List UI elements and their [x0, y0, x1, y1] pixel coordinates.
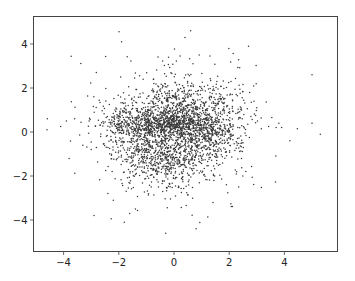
data-point	[118, 152, 120, 154]
data-point	[281, 127, 283, 129]
data-point	[211, 120, 213, 122]
data-point	[133, 155, 135, 157]
data-point	[156, 69, 158, 71]
data-point	[148, 112, 150, 114]
data-point	[110, 121, 112, 123]
data-point	[208, 158, 210, 160]
data-point	[179, 130, 181, 132]
data-point	[124, 221, 126, 223]
data-point	[205, 118, 207, 120]
data-point	[155, 116, 157, 118]
data-point	[150, 153, 152, 155]
data-point	[117, 115, 119, 117]
data-point	[261, 128, 263, 130]
data-point	[170, 102, 172, 104]
data-point	[108, 119, 110, 121]
data-point	[149, 143, 151, 145]
data-point	[187, 194, 189, 196]
data-point	[217, 117, 219, 119]
data-point	[121, 156, 123, 158]
data-point	[184, 37, 186, 39]
data-point	[154, 109, 156, 111]
data-point	[224, 126, 226, 128]
data-point	[214, 168, 216, 170]
data-point	[176, 163, 178, 165]
data-point	[119, 119, 121, 121]
data-point	[132, 160, 134, 162]
data-point	[154, 132, 156, 134]
data-point	[137, 132, 139, 134]
data-point	[155, 130, 157, 132]
data-point	[128, 124, 130, 126]
data-point	[222, 162, 224, 164]
data-point	[198, 132, 200, 134]
data-point	[226, 151, 228, 153]
data-point	[176, 119, 178, 121]
data-point	[179, 104, 181, 106]
data-point	[172, 159, 174, 161]
data-point	[240, 135, 242, 137]
data-point	[142, 151, 144, 153]
data-point	[145, 115, 147, 117]
data-point	[171, 164, 173, 166]
data-point	[189, 135, 191, 137]
data-point	[169, 130, 171, 132]
data-point	[113, 98, 115, 100]
data-point	[193, 99, 195, 101]
data-point	[161, 132, 163, 134]
data-point	[178, 121, 180, 123]
data-point	[167, 93, 169, 95]
data-point	[170, 150, 172, 152]
data-point	[185, 108, 187, 110]
data-point	[170, 157, 172, 159]
data-point	[177, 139, 179, 141]
data-point	[226, 119, 228, 121]
data-point	[156, 121, 158, 123]
data-point	[226, 106, 228, 108]
data-point	[200, 115, 202, 117]
data-point	[181, 146, 183, 148]
data-point	[192, 84, 194, 86]
data-point	[113, 158, 115, 160]
data-point	[136, 117, 138, 119]
data-point	[115, 141, 117, 143]
data-point	[178, 185, 180, 187]
data-point	[190, 151, 192, 153]
data-point	[187, 82, 189, 84]
data-point	[213, 107, 215, 109]
data-point	[208, 88, 210, 90]
data-point	[174, 161, 176, 163]
data-point	[188, 90, 190, 92]
data-point	[235, 169, 237, 171]
data-point	[220, 86, 222, 88]
data-point	[133, 164, 135, 166]
data-point	[167, 99, 169, 101]
data-point	[182, 103, 184, 105]
data-point	[186, 120, 188, 122]
data-point	[139, 136, 141, 138]
data-point	[191, 94, 193, 96]
data-point	[168, 145, 170, 147]
data-point	[179, 126, 181, 128]
data-point	[240, 143, 242, 145]
data-point	[47, 118, 49, 120]
data-point	[114, 133, 116, 135]
data-point	[213, 97, 215, 99]
data-point	[135, 89, 137, 91]
data-point	[132, 141, 134, 143]
data-point	[131, 126, 133, 128]
data-point	[126, 131, 128, 133]
data-point	[186, 117, 188, 119]
data-point	[187, 142, 189, 144]
data-point	[158, 101, 160, 103]
data-point	[163, 108, 165, 110]
data-point	[175, 154, 177, 156]
data-point	[197, 131, 199, 133]
data-point	[126, 129, 128, 131]
data-point	[215, 156, 217, 158]
data-point	[177, 131, 179, 133]
data-point	[117, 130, 119, 132]
data-point	[185, 139, 187, 141]
data-point	[198, 107, 200, 109]
data-point	[249, 137, 251, 139]
